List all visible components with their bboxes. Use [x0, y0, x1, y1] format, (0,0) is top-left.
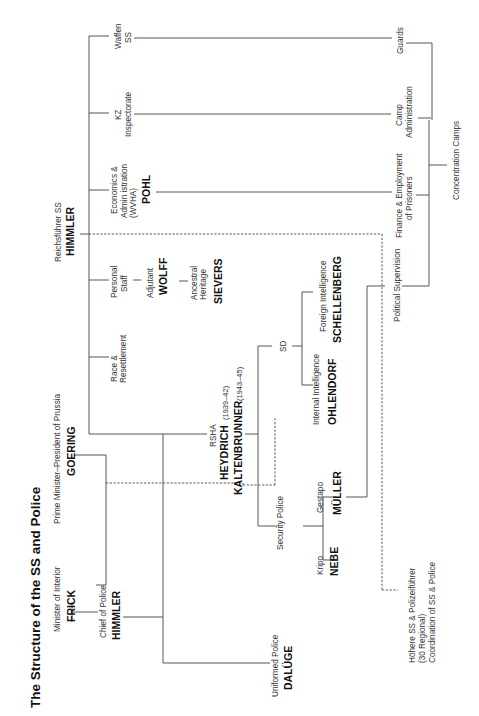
- hssp-line-2: (30 Regional): [418, 614, 427, 663]
- camp-admin-role-1: Camp: [395, 104, 404, 126]
- waffen-role-1: Waffen: [114, 23, 123, 49]
- personal-staff-1: Personal: [110, 266, 119, 298]
- personal-staff-2: Staff: [120, 275, 129, 292]
- uniformed-police-role: Uniformed Police: [271, 634, 280, 697]
- hssp-line-3: Coordination of SS & Police: [428, 562, 437, 663]
- gestapo-name: MÜLLER: [331, 471, 343, 515]
- race-role-2: Resettlement: [119, 334, 128, 383]
- finance-role-2: of Prisoners: [405, 176, 414, 220]
- diagram-title: The Structure of the SS and Police: [28, 486, 43, 708]
- frick-name: FRICK: [65, 590, 77, 622]
- camp-admin-role-2: Administration: [405, 86, 414, 138]
- hssp-line-1: Höhere SS & Polizeiführer: [408, 567, 417, 663]
- kz-role-1: KZ: [114, 110, 123, 120]
- foreign-name: SCHELLENBERG: [331, 256, 343, 343]
- heydrich-name: HEYDRICH: [218, 425, 230, 480]
- goering-name: GOERING: [65, 426, 77, 476]
- kaltenbrunner-years: (1943–45): [235, 366, 244, 401]
- kaltenbrunner-name: KALTENBRUNNER: [232, 400, 244, 495]
- guards-role: Guards: [396, 27, 405, 54]
- internal-role: Internal Intelligence: [312, 354, 321, 425]
- finance-role-1: Finance & Employment: [395, 153, 404, 238]
- security-police-role: Security Police: [276, 495, 285, 550]
- reichsfuhrer-name: HIMMLER: [64, 207, 76, 256]
- rsha-kaltenbrunner: KALTENBRUNNER (1943–45): [232, 366, 244, 495]
- wvha-role-1: Economics &: [110, 166, 119, 214]
- wvha-name: POHL: [140, 174, 152, 204]
- waffen-role-2: SS: [124, 32, 133, 43]
- kripo-name: NEBE: [328, 547, 340, 576]
- sd-role: SD: [279, 341, 288, 352]
- reichsfuhrer-role: Reichsführer SS: [54, 202, 63, 262]
- heydrich-years: (1939–42): [221, 385, 230, 420]
- chief-of-police-role: Chief of Police: [99, 585, 108, 638]
- wvha-role-3: (WVHA): [129, 188, 138, 218]
- chief-of-police-name: HIMMLER: [110, 591, 122, 640]
- adjutant-name: WOLFF: [157, 257, 169, 295]
- adjutant-role: Adjutant: [146, 267, 155, 298]
- rsha-heydrich: HEYDRICH (1939–42): [218, 385, 230, 480]
- ancestral-role-2: Heritage: [199, 269, 208, 300]
- gestapo-role: Gestapo: [316, 482, 325, 513]
- kripo-role: Kripo: [316, 555, 325, 575]
- uniformed-police-name: DALÜGE: [282, 646, 294, 690]
- kz-role-2: Inspectorate: [124, 91, 133, 137]
- goering-role: Prime Minister–President of Prussia: [53, 393, 62, 524]
- frick-role: Minister of Interior: [53, 566, 62, 632]
- race-role-1: Race &: [110, 355, 119, 382]
- wvha-role-2: Admin istration: [120, 163, 129, 218]
- internal-name: OHLENDORF: [326, 358, 338, 425]
- political-supervision-role: Political Supervision: [393, 248, 402, 322]
- ancestral-name: SIEVERS: [212, 258, 224, 304]
- org-chart: The Structure of the SS and Police Minis…: [0, 0, 479, 716]
- ancestral-role-1: Ancestral: [190, 266, 199, 300]
- concentration-camps-label: Concentration Camps: [452, 121, 461, 200]
- foreign-role: Foreign Intelligence: [319, 260, 328, 332]
- rsha-role: RSHA: [209, 424, 218, 447]
